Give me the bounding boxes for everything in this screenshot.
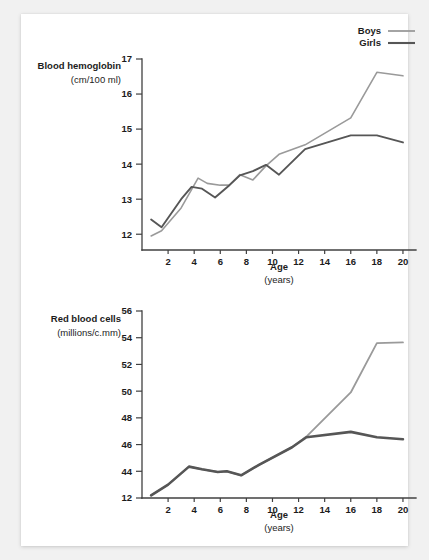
chart-hemoglobin-ylabel-line2: (cm/100 ml) <box>71 74 121 85</box>
chart-red-blood-cells: Red blood cells (millions/c.mm) 12444648… <box>51 305 416 533</box>
series-line-girls <box>151 432 403 495</box>
xtick-label-2: 2 <box>165 256 170 267</box>
chart-rbc-yaxis: 1244464850525456 <box>121 305 142 503</box>
xtick-label-14: 14 <box>319 256 330 267</box>
ytick-label-44: 44 <box>121 466 132 477</box>
ytick-label-17: 17 <box>121 53 132 64</box>
xtick-label-20: 20 <box>398 504 409 515</box>
xtick-label-4: 4 <box>192 256 198 267</box>
series-line-boys <box>151 72 403 236</box>
chart-rbc-ylabel-line1: Red blood cells <box>51 313 121 324</box>
xtick-label-8: 8 <box>244 504 249 515</box>
chart-hemoglobin: Blood hemoglobin (cm/100 ml) 12131415161… <box>38 53 416 285</box>
ytick-label-16: 16 <box>121 88 132 99</box>
chart-rbc-xlabel-line1: Age <box>270 509 288 520</box>
chart-hemoglobin-xlabel-line2: (years) <box>264 274 294 285</box>
xtick-label-12: 12 <box>293 256 304 267</box>
legend-label-girls: Girls <box>359 37 381 48</box>
xtick-label-6: 6 <box>218 256 223 267</box>
chart-rbc-yticks: 1244464850525456 <box>121 305 142 503</box>
chart-hemoglobin-yaxis: 121314151617 <box>121 53 142 250</box>
page-background: Boys Girls Blood hemoglobin (cm/100 ml) … <box>0 0 429 560</box>
xtick-label-4: 4 <box>192 504 198 515</box>
ytick-label-42: 12 <box>121 492 132 503</box>
ytick-label-54: 54 <box>121 332 132 343</box>
xtick-label-16: 16 <box>345 256 356 267</box>
ytick-label-50: 50 <box>121 386 132 397</box>
series-line-girls <box>151 135 403 227</box>
xtick-label-12: 12 <box>293 504 304 515</box>
figure-svg: Boys Girls Blood hemoglobin (cm/100 ml) … <box>0 0 429 560</box>
ytick-label-12: 12 <box>121 229 132 240</box>
chart-hemoglobin-yticks: 121314151617 <box>121 53 142 239</box>
ytick-label-48: 48 <box>121 412 132 423</box>
legend: Boys Girls <box>358 25 415 48</box>
xtick-label-20: 20 <box>398 256 409 267</box>
ytick-label-13: 13 <box>121 194 132 205</box>
chart-hemoglobin-xlabel-line1: Age <box>270 261 288 272</box>
ytick-label-52: 52 <box>121 359 132 370</box>
chart-hemoglobin-ylabel-line1: Blood hemoglobin <box>38 60 122 71</box>
legend-label-boys: Boys <box>358 25 381 36</box>
ytick-label-46: 46 <box>121 439 132 450</box>
chart-rbc-xlabel-line2: (years) <box>264 522 294 533</box>
xtick-label-18: 18 <box>372 504 383 515</box>
xtick-label-6: 6 <box>218 504 223 515</box>
chart-rbc-ylabel-line2: (millions/c.mm) <box>57 327 121 338</box>
series-line-boys <box>151 342 403 495</box>
ytick-label-15: 15 <box>121 123 132 134</box>
xtick-label-14: 14 <box>319 504 330 515</box>
xtick-label-18: 18 <box>372 256 383 267</box>
chart-rbc-series <box>151 342 403 495</box>
ytick-label-56: 56 <box>121 305 132 316</box>
chart-hemoglobin-series <box>151 72 403 236</box>
xtick-label-16: 16 <box>345 504 356 515</box>
xtick-label-8: 8 <box>244 256 249 267</box>
xtick-label-2: 2 <box>165 504 170 515</box>
ytick-label-14: 14 <box>121 159 132 170</box>
